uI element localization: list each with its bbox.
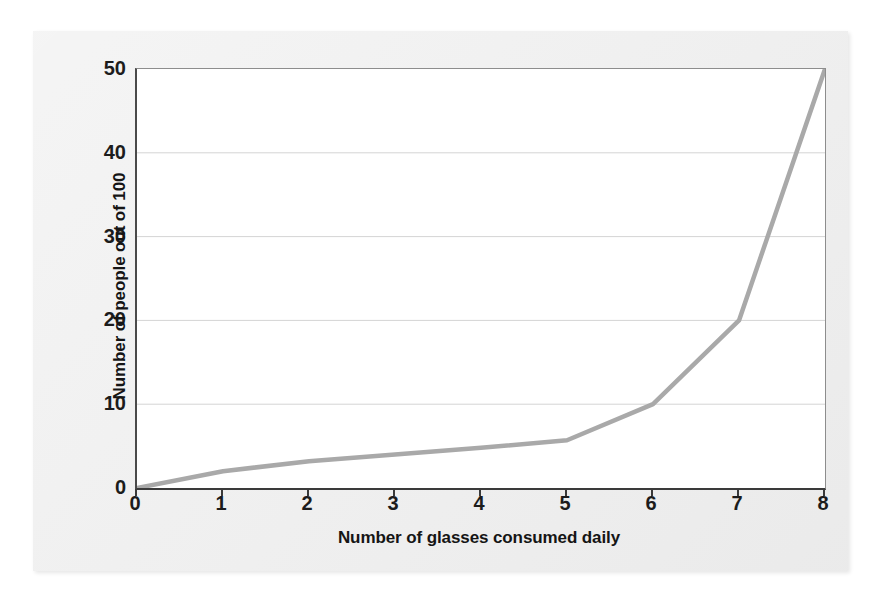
x-axis-tick-label: 8 [803, 493, 843, 513]
x-axis-tick-label: 1 [201, 493, 241, 513]
data-line [137, 69, 825, 488]
x-axis-tick-labels: 012345678 [135, 493, 823, 521]
x-axis-tick-label: 3 [373, 493, 413, 513]
gridlines [137, 153, 825, 404]
data-line-series [137, 69, 825, 488]
x-axis-tick-label: 4 [459, 493, 499, 513]
y-axis-title-wrapper: Number of people out of 100 [78, 68, 79, 487]
x-axis-tick-label: 7 [717, 493, 757, 513]
x-axis-tick-label: 2 [287, 493, 327, 513]
plot-canvas [137, 69, 825, 488]
y-axis-title: Number of people out of 100 [110, 106, 130, 466]
plot-area [135, 68, 826, 490]
chart-figure: 01020304050 Number of people out of 100 … [0, 0, 874, 592]
y-axis-tick-label: 50 [80, 58, 126, 78]
x-axis-tick-label: 0 [115, 493, 155, 513]
x-axis-title: Number of glasses consumed daily [135, 528, 823, 548]
x-axis-tick-label: 5 [545, 493, 585, 513]
x-axis-tick-label: 6 [631, 493, 671, 513]
